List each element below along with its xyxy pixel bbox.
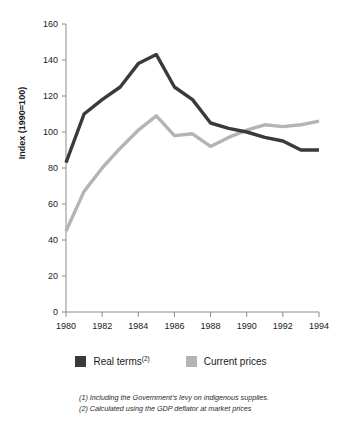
- line-chart-svg: 0204060801001201401601980198219841986198…: [0, 0, 342, 345]
- y-tick-label: 160: [43, 19, 58, 29]
- y-tick-label: 120: [43, 91, 58, 101]
- chart-footnotes: (1) Including the Government's levy on i…: [79, 392, 269, 414]
- x-tick-label: 1984: [128, 321, 148, 331]
- footnote-1: (1) Including the Government's levy on i…: [79, 392, 269, 403]
- legend-text-real-terms: Real terms: [93, 356, 141, 367]
- x-tick-label: 1988: [201, 321, 221, 331]
- legend-item-current-prices: Current prices: [186, 355, 267, 367]
- legend-item-real-terms: Real terms(2): [75, 355, 149, 367]
- x-tick-label: 1990: [237, 321, 257, 331]
- series-line-real-terms: [66, 55, 319, 163]
- y-tick-label: 20: [48, 271, 58, 281]
- y-tick-label: 0: [53, 307, 58, 317]
- x-tick-label: 1986: [164, 321, 184, 331]
- y-tick-label: 100: [43, 127, 58, 137]
- y-tick-label: 80: [48, 163, 58, 173]
- plot-area: Index (1990=100) 02040608010012014016019…: [0, 0, 342, 345]
- y-tick-label: 40: [48, 235, 58, 245]
- legend-label-real-terms: Real terms(2): [93, 355, 149, 367]
- chart-figure: Index (1990=100) 02040608010012014016019…: [0, 0, 342, 433]
- legend-label-current-prices: Current prices: [204, 355, 267, 367]
- x-tick-label: 1992: [273, 321, 293, 331]
- legend-swatch-real-terms: [75, 356, 86, 367]
- x-tick-label: 1994: [309, 321, 329, 331]
- legend-superscript-real-terms: (2): [142, 355, 150, 362]
- footnote-2: (2) Calculated using the GDP deflator at…: [79, 403, 269, 414]
- series-line-current-prices: [66, 116, 319, 231]
- x-tick-label: 1980: [56, 321, 76, 331]
- x-tick-label: 1982: [92, 321, 112, 331]
- legend-swatch-current-prices: [186, 356, 197, 367]
- y-tick-label: 140: [43, 55, 58, 65]
- y-tick-label: 60: [48, 199, 58, 209]
- chart-legend: Real terms(2) Current prices: [0, 355, 342, 367]
- legend-text-current-prices: Current prices: [204, 356, 267, 367]
